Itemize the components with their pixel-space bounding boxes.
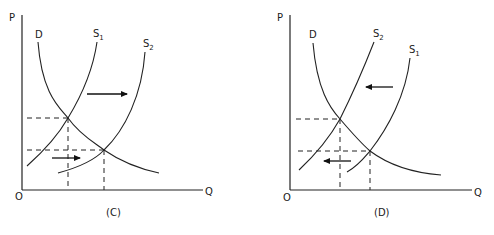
x-axis-label: Q xyxy=(474,187,482,198)
y-axis-label: P xyxy=(9,12,15,23)
x-axis-label: Q xyxy=(205,186,213,197)
s1-label: S1 xyxy=(93,28,104,42)
figure-d: P Q O D S2 S1 (D) xyxy=(277,12,482,218)
demand-curve xyxy=(313,43,441,175)
supply-curve-s1 xyxy=(27,42,97,166)
supply-demand-diagrams: P Q O D S1 S2 (C) P Q O D S2 xyxy=(0,0,494,235)
supply-curve-s1 xyxy=(347,58,410,172)
demand-curve xyxy=(38,42,159,173)
figure-caption: (C) xyxy=(106,207,121,218)
s2-label: S2 xyxy=(373,28,384,42)
y-axis-label: P xyxy=(277,12,283,23)
demand-label: D xyxy=(35,29,43,40)
origin-label: O xyxy=(15,191,23,202)
demand-label: D xyxy=(309,29,317,40)
origin-label: O xyxy=(283,192,291,203)
figure-caption: (D) xyxy=(374,207,390,218)
figure-c: P Q O D S1 S2 (C) xyxy=(9,12,213,218)
s1-label: S1 xyxy=(409,44,420,58)
s2-label: S2 xyxy=(143,38,154,52)
